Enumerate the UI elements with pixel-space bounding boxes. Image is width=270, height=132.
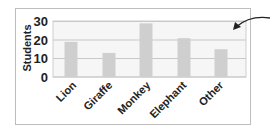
bar-elephant: [178, 38, 191, 77]
x-label-elephant: Elephant: [147, 79, 189, 121]
y-tick-10: 10: [34, 51, 48, 66]
x-axis-labels: Lion Giraffe Monkey Elephant Other: [54, 78, 226, 120]
y-tick-0: 0: [41, 70, 48, 85]
bar-lion: [65, 42, 78, 77]
y-axis-label: Students: [21, 24, 33, 71]
x-label-giraffe: Giraffe: [81, 79, 115, 113]
y-tick-20: 20: [34, 33, 48, 48]
x-label-lion: Lion: [54, 79, 79, 104]
bar-other: [215, 49, 228, 77]
y-axis-ticks: 30 20 10 0: [34, 14, 48, 85]
bar-giraffe: [103, 53, 116, 77]
bar-chart: 30 20 10 0 Students Lion Giraffe Monkey …: [0, 0, 270, 132]
y-tick-30: 30: [34, 14, 48, 29]
bar-monkey: [140, 23, 153, 77]
x-label-other: Other: [196, 78, 226, 108]
